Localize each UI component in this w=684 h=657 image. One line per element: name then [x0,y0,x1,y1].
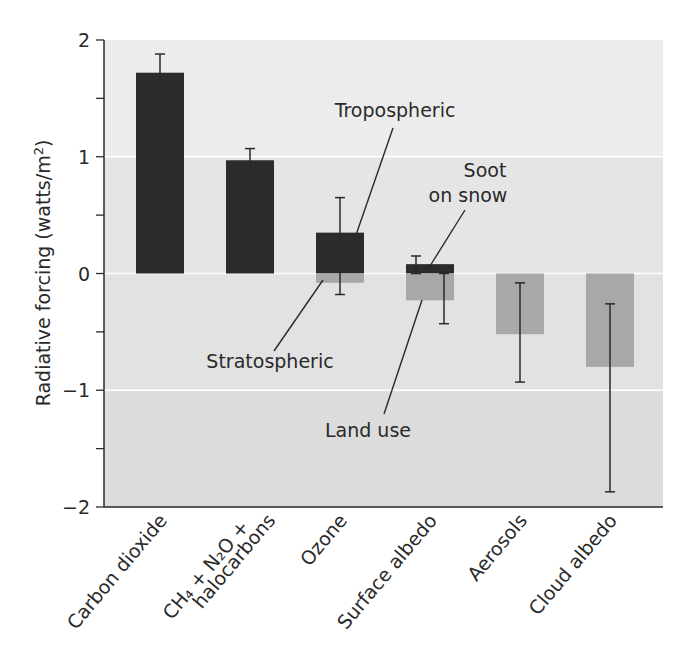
x-tick-label: Carbon dioxide [62,509,171,633]
y-tick-label: 0 [78,263,90,285]
x-tick-label-line: Ozone [295,509,351,569]
y-tick-label: 1 [78,146,90,168]
x-tick-label-line: Cloud albedo [524,509,621,619]
x-tick-label: Aerosols [463,509,531,584]
x-tick-label: CH₄ + N₂O +halocarbons [158,499,280,634]
bar-carbon-dioxide [136,73,184,274]
x-tick-label: Cloud albedo [524,509,621,619]
plot-band [104,157,663,274]
plot-band [104,274,663,391]
x-tick-label-line: Surface albedo [332,509,441,633]
y-axis: 210−1−2 [62,29,104,518]
annotation-land-use: Land use [325,419,411,441]
annotation-soot-on-snow: Soot [464,159,507,181]
plot-band [104,390,663,507]
bar-ch4-n2o-halocarbons [226,160,274,273]
y-axis-label: Radiative forcing (watts/m2) [31,140,54,407]
radiative-forcing-chart: 210−1−2 Carbon dioxideCH₄ + N₂O +halocar… [0,0,684,657]
x-tick-label-line: Carbon dioxide [62,509,171,633]
x-tick-label-line: Aerosols [463,509,531,584]
y-tick-label: −2 [62,496,90,518]
y-tick-label: −1 [62,379,90,401]
annotation-soot-on-snow: on snow [429,184,508,206]
annotation-stratospheric: Stratospheric [206,350,333,372]
x-tick-label: Surface albedo [332,509,441,633]
y-tick-label: 2 [78,29,90,51]
x-axis: Carbon dioxideCH₄ + N₂O +halocarbonsOzon… [62,499,663,634]
bar-land-use [406,274,454,301]
annotation-tropospheric: Tropospheric [334,99,456,121]
x-tick-label: Ozone [295,509,351,569]
